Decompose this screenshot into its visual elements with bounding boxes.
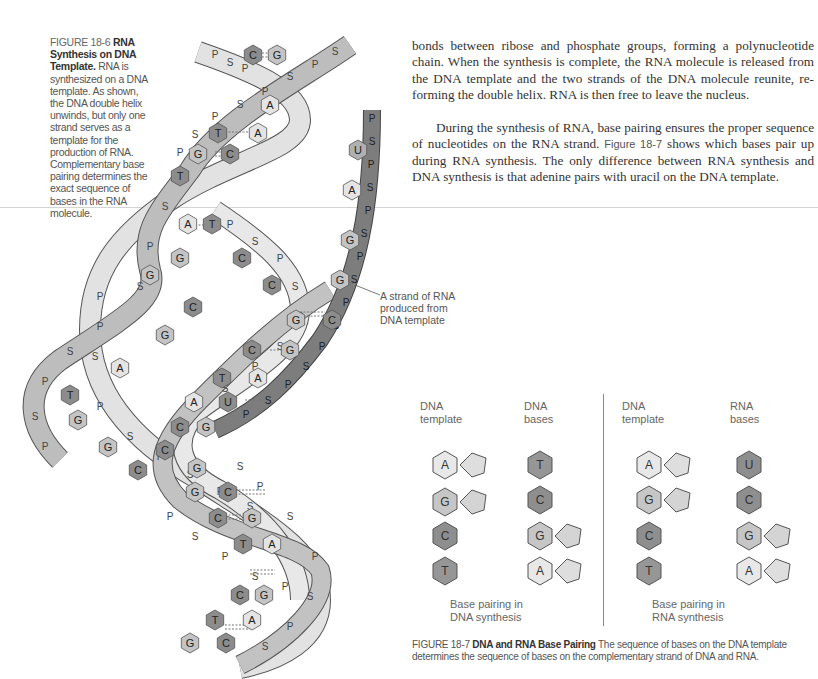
- svg-text:S: S: [227, 57, 234, 68]
- figure-number: FIGURE 18-7: [412, 639, 470, 650]
- svg-text:G: G: [202, 421, 211, 433]
- svg-text:S: S: [303, 361, 310, 372]
- svg-text:C: C: [226, 148, 234, 160]
- figure-18-7-caption: FIGURE 18-7 DNA and RNA Base Pairing The…: [412, 639, 818, 664]
- label-line: DNA template: [380, 314, 455, 326]
- rna-strand-label: A strand of RNA produced from DNA templa…: [380, 290, 455, 326]
- base-G: G: [268, 45, 285, 65]
- paragraph-text: bonds between ribose and phosphate group…: [412, 38, 814, 103]
- svg-text:S: S: [252, 236, 259, 247]
- svg-text:S: S: [262, 641, 269, 652]
- svg-text:G: G: [286, 344, 295, 356]
- svg-text:S: S: [332, 46, 339, 57]
- svg-text:C: C: [249, 49, 257, 61]
- base-G: G: [156, 325, 173, 345]
- base-C: C: [233, 248, 250, 268]
- left-base-C: C: [528, 486, 552, 514]
- base-T: T: [206, 610, 223, 630]
- base-C: C: [217, 633, 234, 653]
- svg-text:A: A: [536, 564, 544, 578]
- figure-reference-link[interactable]: Figure 18-7: [604, 138, 662, 150]
- svg-text:P: P: [222, 551, 229, 562]
- svg-text:P: P: [319, 341, 326, 352]
- svg-text:S: S: [287, 71, 294, 82]
- svg-text:S: S: [252, 571, 259, 582]
- svg-text:G: G: [186, 637, 195, 649]
- figure-18-7-base-pairing: DNA template DNA bases DNA template RNA …: [420, 400, 818, 625]
- svg-text:C: C: [161, 444, 169, 456]
- svg-text:P: P: [167, 511, 174, 522]
- svg-text:A: A: [248, 614, 256, 626]
- svg-text:P: P: [282, 581, 289, 592]
- left-template-A: A: [433, 451, 486, 479]
- svg-text:S: S: [292, 281, 299, 292]
- svg-text:G: G: [292, 314, 301, 326]
- svg-text:C: C: [645, 529, 654, 543]
- svg-text:S: S: [162, 201, 169, 212]
- left-base-A: A: [528, 557, 581, 585]
- svg-text:S: S: [361, 228, 368, 239]
- svg-text:A: A: [254, 372, 262, 384]
- svg-text:P: P: [177, 147, 184, 158]
- svg-text:U: U: [224, 396, 232, 408]
- svg-text:S: S: [192, 129, 199, 140]
- right-bases-header: RNA bases: [730, 400, 759, 426]
- figure-title: DNA and RNA Base Pairing: [472, 639, 595, 650]
- svg-text:T: T: [215, 127, 222, 139]
- svg-text:A: A: [441, 458, 449, 472]
- svg-text:S: S: [307, 591, 314, 602]
- svg-text:U: U: [354, 144, 362, 156]
- svg-text:P: P: [343, 297, 350, 308]
- svg-text:P: P: [312, 59, 319, 70]
- base-A: A: [111, 358, 128, 378]
- svg-text:S: S: [127, 431, 134, 442]
- right-template-A: A: [637, 451, 690, 479]
- dna-synthesis-label: Base pairing in DNA synthesis: [450, 598, 523, 624]
- svg-text:G: G: [104, 441, 113, 453]
- svg-text:G: G: [161, 329, 170, 341]
- body-paragraph-2: During the synthesis of RNA, base pairin…: [412, 120, 814, 185]
- svg-text:C: C: [745, 493, 754, 507]
- base-A: A: [249, 123, 266, 143]
- right-base-A: A: [737, 557, 790, 585]
- left-base-T: T: [528, 451, 552, 479]
- svg-text:P: P: [287, 621, 294, 632]
- svg-text:P: P: [262, 86, 269, 97]
- left-base-G: G: [528, 522, 581, 550]
- svg-text:A: A: [184, 218, 192, 230]
- svg-text:C: C: [222, 637, 230, 649]
- svg-text:P: P: [365, 205, 372, 216]
- svg-text:P: P: [368, 159, 375, 170]
- body-paragraph-1: bonds between ribose and phosphate group…: [412, 38, 814, 103]
- svg-text:T: T: [441, 564, 449, 578]
- svg-text:A: A: [254, 127, 262, 139]
- right-template-C: C: [637, 522, 661, 550]
- svg-text:P: P: [97, 291, 104, 302]
- base-T: T: [61, 385, 78, 405]
- svg-text:C: C: [176, 421, 184, 433]
- svg-text:P: P: [312, 551, 319, 562]
- svg-text:A: A: [268, 538, 276, 550]
- svg-text:G: G: [644, 493, 653, 507]
- svg-text:C: C: [268, 279, 276, 291]
- svg-text:C: C: [189, 301, 197, 313]
- svg-text:P: P: [97, 401, 104, 412]
- svg-text:G: G: [176, 252, 185, 264]
- svg-text:C: C: [134, 464, 142, 476]
- svg-text:S: S: [351, 274, 358, 285]
- svg-text:T: T: [212, 614, 219, 626]
- base-A: A: [243, 610, 260, 630]
- svg-text:G: G: [260, 589, 269, 601]
- svg-text:G: G: [191, 486, 200, 498]
- svg-text:A: A: [190, 396, 198, 408]
- svg-text:G: G: [346, 234, 355, 246]
- svg-text:G: G: [74, 414, 83, 426]
- svg-text:P: P: [42, 376, 49, 387]
- svg-text:P: P: [242, 63, 249, 74]
- right-base-U: U: [737, 451, 761, 479]
- right-template-header: DNA template: [622, 400, 664, 426]
- svg-text:G: G: [146, 269, 155, 281]
- svg-text:S: S: [369, 136, 376, 147]
- base-A: A: [343, 180, 360, 200]
- base-G: G: [171, 248, 188, 268]
